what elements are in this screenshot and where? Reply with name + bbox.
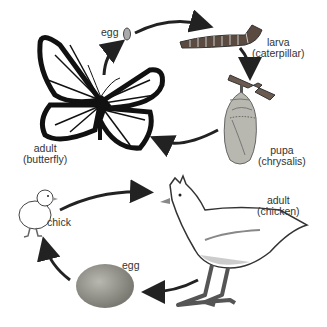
- butterfly-egg-label: egg: [101, 27, 119, 38]
- arrow-chick-to-chicken: [60, 192, 145, 210]
- adult-butterfly-label-line2: (butterfly): [23, 154, 67, 165]
- pupa-label-line2: (chrysalis): [258, 156, 306, 167]
- arrow-larva-to-pupa: [240, 48, 250, 72]
- chick-icon: [19, 190, 58, 237]
- arrow-chicken-to-egg: [150, 280, 198, 292]
- adult-butterfly-label: adult (butterfly): [23, 143, 67, 165]
- pupa-label: pupa (chrysalis): [258, 145, 306, 167]
- adult-chicken-label: adult (chicken): [257, 195, 300, 217]
- adult-chicken-label-line2: (chicken): [257, 206, 300, 217]
- butterfly-icon: [40, 38, 163, 149]
- arrow-egg-to-larva: [135, 21, 205, 33]
- larva-label-line2: (caterpillar): [252, 48, 305, 59]
- butterfly-egg-icon: [124, 28, 131, 40]
- arrow-adult-to-egg: [104, 45, 118, 75]
- larva-label: larva (caterpillar): [252, 37, 305, 59]
- chick-label: chick: [47, 217, 71, 228]
- chicken-egg-label: egg: [122, 260, 140, 271]
- caterpillar-icon: [180, 25, 262, 48]
- arrow-egg-to-chick: [45, 245, 70, 280]
- arrow-pupa-to-adult: [158, 130, 218, 143]
